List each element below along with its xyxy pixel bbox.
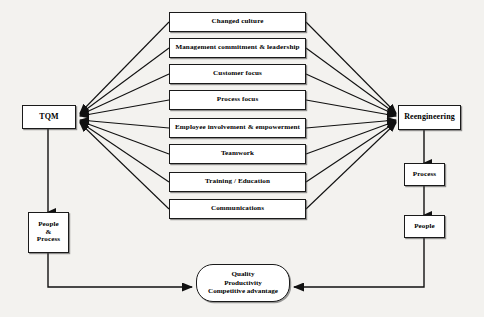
factor-box-changed-culture[interactable]: Changed culture — [169, 12, 306, 32]
node-reengineering-label: Reengineering — [404, 113, 455, 122]
outcome-line-competitive-advantage: Competitive advantage — [208, 287, 278, 296]
node-people[interactable]: People — [404, 215, 445, 238]
diagram-canvas: TQM Reengineering People & Process Proce… — [0, 0, 484, 317]
edge-group-to-reengineering — [306, 22, 396, 209]
factor-box-teamwork[interactable]: Teamwork — [169, 144, 306, 164]
factor-label: Employee involvement & empowerment — [175, 124, 300, 132]
factor-label: Management commitment & leadership — [175, 44, 299, 52]
factor-label: Training / Education — [205, 178, 270, 186]
factor-box-employee-involvement-empowerment[interactable]: Employee involvement & empowerment — [169, 118, 306, 138]
edge-people-process-to-outcome — [48, 253, 192, 287]
factor-box-training-education[interactable]: Training / Education — [169, 172, 306, 192]
outcome-line-productivity: Productivity — [224, 279, 262, 288]
node-outcome[interactable]: Quality Productivity Competitive advanta… — [196, 264, 290, 302]
node-process[interactable]: Process — [404, 163, 445, 186]
node-process-label: Process — [413, 171, 436, 179]
factor-label: Customer focus — [213, 70, 262, 78]
factor-box-management-commitment-leadership[interactable]: Management commitment & leadership — [169, 38, 306, 58]
factor-box-process-focus[interactable]: Process focus — [169, 90, 306, 110]
edge-people-to-outcome — [294, 238, 424, 287]
node-reengineering[interactable]: Reengineering — [398, 105, 461, 130]
node-tqm-label: TQM — [39, 113, 58, 122]
outcome-line-quality: Quality — [232, 270, 255, 279]
factor-label: Teamwork — [221, 150, 254, 158]
factor-label: Process focus — [217, 96, 259, 104]
edge-group-to-tqm — [80, 22, 169, 209]
factor-box-communications[interactable]: Communications — [169, 199, 306, 219]
node-people-label: People — [414, 223, 435, 231]
node-people-and-process[interactable]: People & Process — [28, 212, 69, 253]
node-people-and-process-line3: Process — [37, 236, 60, 244]
factor-box-customer-focus[interactable]: Customer focus — [169, 64, 306, 84]
factor-label: Changed culture — [211, 18, 263, 26]
factor-label: Communications — [211, 205, 264, 213]
node-tqm[interactable]: TQM — [22, 105, 76, 129]
